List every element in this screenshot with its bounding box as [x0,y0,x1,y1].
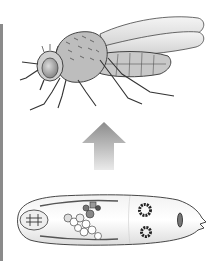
larva-mouth-region [20,210,48,230]
larva-illustration [18,195,207,245]
arrow-up-icon [82,122,126,170]
adult-fly-illustration [20,17,204,110]
development-diagram [0,0,218,261]
diagram-canvas [0,0,218,261]
larva-spiracle [178,213,183,227]
fly-eye [42,58,58,78]
